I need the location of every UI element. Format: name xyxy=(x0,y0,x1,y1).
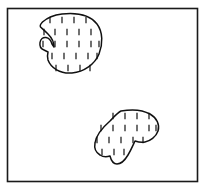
figure-container xyxy=(0,0,206,191)
scanline-region-figure xyxy=(0,0,206,191)
